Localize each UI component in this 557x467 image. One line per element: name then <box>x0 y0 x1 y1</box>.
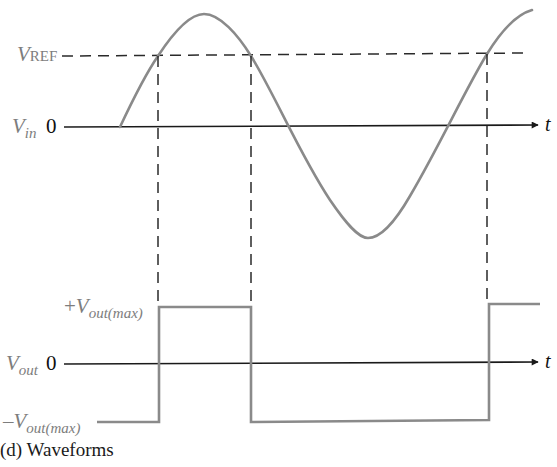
vref-label: VREF <box>17 44 57 65</box>
waveform-diagram <box>0 0 557 467</box>
vout-t-axis-label: t <box>545 351 551 371</box>
vref-dashed-line <box>62 53 526 56</box>
figure-caption: (d) Waveforms <box>0 440 114 459</box>
vout-low-label: –Vout(max) <box>3 411 80 432</box>
vin-time-axis <box>64 125 538 127</box>
vout-label: Vout <box>6 353 38 374</box>
vout-zero-label: 0 <box>46 353 57 374</box>
vin-label: Vin <box>12 116 37 137</box>
vout-high-label: +Vout(max) <box>64 296 143 317</box>
vin-zero-label: 0 <box>46 116 57 137</box>
vin-sine-wave <box>120 10 532 238</box>
vout-time-axis <box>64 362 538 364</box>
vin-t-axis-label: t <box>545 114 551 134</box>
